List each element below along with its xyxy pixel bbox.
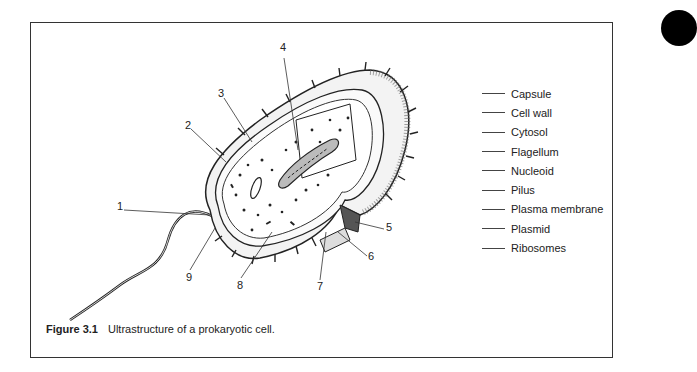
term-item: Pilus xyxy=(482,180,603,199)
term-label: Capsule xyxy=(511,88,551,100)
term-item: Plasmid xyxy=(482,219,603,238)
term-label: Ribosomes xyxy=(511,242,566,254)
term-item: Cytosol xyxy=(482,123,603,142)
term-list: Capsule Cell wall Cytosol Flagellum Nucl… xyxy=(482,84,603,258)
callout-2: 2 xyxy=(185,119,191,131)
term-item: Nucleoid xyxy=(482,161,603,180)
blank-line xyxy=(482,228,505,229)
term-item: Flagellum xyxy=(482,142,603,161)
callout-3: 3 xyxy=(218,87,224,99)
term-label: Flagellum xyxy=(511,146,559,158)
term-item: Cell wall xyxy=(482,103,603,122)
callout-1: 1 xyxy=(117,200,123,212)
blank-line xyxy=(482,248,505,249)
term-item: Ribosomes xyxy=(482,238,603,257)
blank-line xyxy=(482,209,505,210)
callout-9: 9 xyxy=(186,271,192,283)
blank-line xyxy=(482,190,505,191)
figure-caption-text: Ultrastructure of a prokaryotic cell. xyxy=(108,323,275,335)
term-label: Plasmid xyxy=(511,223,550,235)
callout-5: 5 xyxy=(386,221,392,233)
term-label: Pilus xyxy=(511,184,535,196)
blank-line xyxy=(482,170,505,171)
blank-line xyxy=(482,93,505,94)
term-item: Capsule xyxy=(482,84,603,103)
figure-caption: Figure 3.1Ultrastructure of a prokaryoti… xyxy=(46,323,275,335)
blank-line xyxy=(482,132,505,133)
term-label: Plasma membrane xyxy=(511,203,603,215)
flagellum-drawing xyxy=(70,212,212,320)
term-item: Plasma membrane xyxy=(482,200,603,219)
term-label: Cell wall xyxy=(511,107,552,119)
term-label: Nucleoid xyxy=(511,165,554,177)
figure-label: Figure 3.1 xyxy=(46,323,98,335)
callout-7: 7 xyxy=(317,280,323,292)
term-label: Cytosol xyxy=(511,126,548,138)
blank-line xyxy=(482,112,505,113)
callout-8: 8 xyxy=(237,279,243,291)
blank-line xyxy=(482,151,505,152)
callout-4: 4 xyxy=(280,41,286,53)
callout-6: 6 xyxy=(368,250,374,262)
